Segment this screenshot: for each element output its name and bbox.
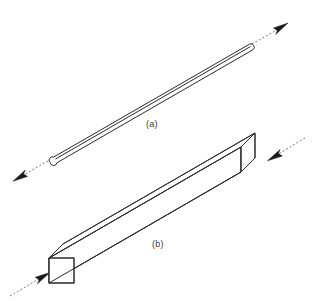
bar-compression-arrowhead-left xyxy=(35,273,50,284)
bar-compression-force-line-right xyxy=(275,138,305,156)
rod-tension-arrowhead-left xyxy=(13,170,28,181)
loading-diagram-svg xyxy=(0,0,313,301)
figure-container: (a) (b) xyxy=(0,0,313,301)
rod-tension-arrowhead-right xyxy=(274,23,289,34)
bar-edge-front-bottom xyxy=(49,172,241,283)
bar-front-face xyxy=(49,147,241,283)
bar-compression-arrowhead-right xyxy=(268,150,283,161)
bar-edge-front-top xyxy=(49,147,241,258)
figure-label-a: (a) xyxy=(146,119,158,129)
figure-label-b: (b) xyxy=(152,239,164,249)
bar-edge-back-top xyxy=(63,133,255,244)
rod-interior-highlight xyxy=(56,47,251,160)
